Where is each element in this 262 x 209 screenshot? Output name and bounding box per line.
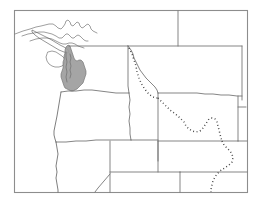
map-figure: Pacific Northwest regional map Outline m… (0, 0, 262, 209)
map-canvas (0, 0, 262, 209)
map-background (0, 0, 262, 209)
